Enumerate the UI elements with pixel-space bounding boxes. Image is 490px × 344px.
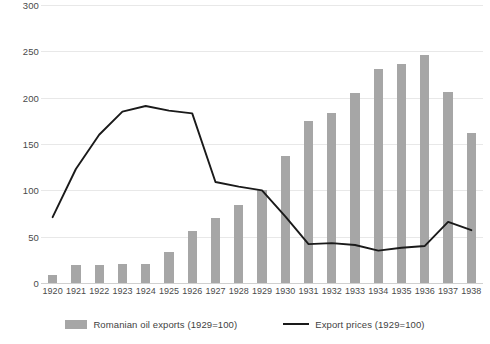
y-axis-tick-label: 150 <box>23 139 39 150</box>
bar-1927 <box>211 218 220 283</box>
y-axis-tick-label: 50 <box>28 231 39 242</box>
gridline <box>41 5 483 6</box>
x-axis-tick-1920: 1920 <box>43 286 63 296</box>
bar-1938 <box>467 133 476 283</box>
x-axis-tick-1926: 1926 <box>182 286 202 296</box>
bar-1925 <box>164 252 173 284</box>
bar-1926 <box>188 231 197 283</box>
legend-item-line[interactable]: Export prices (1929=100) <box>283 319 424 330</box>
bar-1929 <box>257 190 266 283</box>
x-axis-tick-1930: 1930 <box>275 286 295 296</box>
x-axis-tick-1925: 1925 <box>159 286 179 296</box>
legend-item-bar[interactable]: Romanian oil exports (1929=100) <box>65 319 237 330</box>
bar-1935 <box>397 64 406 283</box>
bar-1922 <box>95 265 104 283</box>
gridline <box>41 144 483 145</box>
legend-line-label: Export prices (1929=100) <box>315 319 424 330</box>
x-axis-tick-1937: 1937 <box>438 286 458 296</box>
bar-1936 <box>420 55 429 283</box>
x-axis-tick-1924: 1924 <box>136 286 156 296</box>
x-axis-ticks: 1920192119221923192419251926192719281929… <box>41 286 483 300</box>
bar-1937 <box>443 92 452 283</box>
x-axis-tick-1923: 1923 <box>112 286 132 296</box>
gridline <box>41 98 483 99</box>
legend-line-swatch-icon <box>283 323 309 325</box>
gridline <box>41 51 483 52</box>
y-axis-tick-label: 0 <box>34 278 39 289</box>
x-axis-tick-1922: 1922 <box>89 286 109 296</box>
x-axis-tick-1935: 1935 <box>392 286 412 296</box>
x-axis-tick-1929: 1929 <box>252 286 272 296</box>
y-axis-tick-label: 100 <box>23 185 39 196</box>
chart-legend: Romanian oil exports (1929=100) Export p… <box>0 316 490 332</box>
bar-1931 <box>304 121 313 283</box>
bar-1932 <box>327 113 336 283</box>
x-axis-tick-1936: 1936 <box>415 286 435 296</box>
x-axis-tick-1927: 1927 <box>205 286 225 296</box>
x-axis-tick-1921: 1921 <box>66 286 86 296</box>
plot-area <box>41 5 483 283</box>
y-axis-tick-label: 200 <box>23 92 39 103</box>
bar-1923 <box>118 264 127 283</box>
x-axis-line <box>41 283 483 284</box>
y-axis-tick-label: 300 <box>23 0 39 11</box>
bar-1934 <box>374 69 383 283</box>
bar-1928 <box>234 205 243 283</box>
legend-bar-swatch-icon <box>65 320 87 329</box>
bar-1920 <box>48 275 57 283</box>
legend-bar-label: Romanian oil exports (1929=100) <box>93 319 237 330</box>
y-axis-tick-label: 250 <box>23 46 39 57</box>
x-axis-tick-1933: 1933 <box>345 286 365 296</box>
x-axis-tick-1934: 1934 <box>368 286 388 296</box>
bar-1921 <box>71 265 80 283</box>
bar-1930 <box>281 156 290 283</box>
x-axis-tick-1938: 1938 <box>461 286 481 296</box>
bar-1924 <box>141 264 150 283</box>
x-axis-tick-1932: 1932 <box>322 286 342 296</box>
bar-1933 <box>350 93 359 283</box>
x-axis-tick-1928: 1928 <box>229 286 249 296</box>
x-axis-tick-1931: 1931 <box>299 286 319 296</box>
chart-container: 050100150200250300 192019211922192319241… <box>0 0 490 344</box>
